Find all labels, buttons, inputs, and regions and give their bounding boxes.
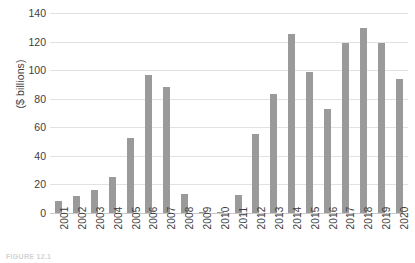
x-label-slot: 2014 — [283, 216, 301, 258]
bar-slot — [193, 13, 211, 213]
bar-chart-figure: ($ billions) 140120100806040200 20012002… — [0, 0, 415, 263]
x-label-slot: 2006 — [140, 216, 158, 258]
bar-slot — [337, 13, 355, 213]
x-label-slot: 2004 — [104, 216, 122, 258]
bar-slot — [211, 13, 229, 213]
y-tick-label: 20 — [18, 178, 46, 190]
x-label-slot: 2016 — [319, 216, 337, 258]
bar — [324, 109, 331, 213]
x-tick-label: 2020 — [399, 206, 410, 229]
bar — [360, 28, 367, 213]
x-label-slot: 2013 — [265, 216, 283, 258]
bar-slot — [68, 13, 86, 213]
x-label-slot: 2012 — [247, 216, 265, 258]
x-label-slot: 2002 — [68, 216, 86, 258]
bar — [306, 72, 313, 213]
x-label-slot: 2005 — [122, 216, 140, 258]
bar-slot — [86, 13, 104, 213]
bar — [252, 134, 259, 213]
bar-slot — [157, 13, 175, 213]
bar-slot — [140, 13, 158, 213]
x-label-slot: 2019 — [372, 216, 390, 258]
x-label-slot: 2015 — [301, 216, 319, 258]
bar-slot — [354, 13, 372, 213]
bar — [378, 43, 385, 213]
bar-slot — [372, 13, 390, 213]
bar-slot — [247, 13, 265, 213]
x-label-slot: 2020 — [390, 216, 408, 258]
y-axis-tick-labels: 140120100806040200 — [18, 13, 46, 213]
bar — [163, 87, 170, 213]
x-label-slot: 2007 — [157, 216, 175, 258]
bar — [396, 79, 403, 213]
bar-slot — [229, 13, 247, 213]
bar — [127, 138, 134, 213]
bar-slot — [283, 13, 301, 213]
x-label-slot: 2003 — [86, 216, 104, 258]
bar — [145, 75, 152, 213]
bar-slot — [319, 13, 337, 213]
bar-slot — [301, 13, 319, 213]
bar-slot — [50, 13, 68, 213]
bar-slot — [122, 13, 140, 213]
bar-slot — [175, 13, 193, 213]
y-tick-label: 40 — [18, 150, 46, 162]
bar-slot — [390, 13, 408, 213]
bar — [342, 43, 349, 213]
y-tick-label: 0 — [18, 207, 46, 219]
x-label-slot: 2018 — [354, 216, 372, 258]
figure-caption: FIGURE 12.1 — [6, 253, 51, 260]
y-tick-label: 80 — [18, 93, 46, 105]
plot-area — [50, 13, 408, 213]
bar-slot — [265, 13, 283, 213]
bar — [270, 94, 277, 213]
y-tick-label: 140 — [18, 7, 46, 19]
x-label-slot: 2017 — [337, 216, 355, 258]
x-label-slot: 2001 — [50, 216, 68, 258]
y-tick-label: 100 — [18, 64, 46, 76]
bar-slot — [104, 13, 122, 213]
x-label-slot: 2008 — [175, 216, 193, 258]
y-tick-label: 60 — [18, 121, 46, 133]
bar — [288, 34, 295, 213]
x-axis-tick-labels: 2001200220032004200520062007200820092010… — [50, 216, 408, 258]
bar-series — [50, 13, 408, 213]
x-label-slot: 2009 — [193, 216, 211, 258]
x-label-slot: 2011 — [229, 216, 247, 258]
x-label-slot: 2010 — [211, 216, 229, 258]
y-tick-label: 120 — [18, 36, 46, 48]
